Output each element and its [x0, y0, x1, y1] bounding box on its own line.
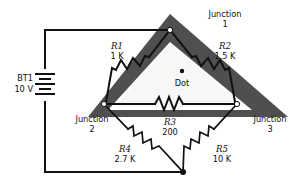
r3-ref-label: R3 [163, 117, 176, 127]
r5-ref-label: R5 [215, 144, 228, 154]
r2-value-label: 1.5 K [215, 51, 237, 61]
junction-2-name: Junction [75, 114, 109, 124]
r5-value-label: 10 K [213, 154, 232, 164]
battery-ref-label: BT1 [17, 73, 33, 83]
circuit-diagram: BT1 10 V [0, 0, 299, 187]
junction-1-name: Junction [208, 9, 242, 19]
r2-ref-label: R2 [218, 41, 231, 51]
schematic-canvas: BT1 10 V [0, 0, 299, 187]
battery-symbol [36, 74, 54, 94]
junction-1-number: 1 [222, 19, 227, 29]
battery-value-label: 10 V [14, 84, 33, 94]
center-dot-label: Dot [175, 78, 190, 88]
junction-node-1 [167, 27, 172, 32]
junction-3-number: 3 [267, 124, 272, 134]
junction-node-2 [101, 101, 106, 106]
resistor-r5-zigzag [183, 126, 214, 172]
r4-ref-label: R4 [118, 144, 131, 154]
r3-value-label: 200 [162, 127, 178, 137]
center-dot-icon [180, 69, 184, 73]
junction-3-name: Junction [253, 114, 287, 124]
junction-2-number: 2 [89, 124, 94, 134]
r1-ref-label: R1 [110, 41, 123, 51]
junction-node-3 [234, 101, 239, 106]
r1-value-label: 1 K [110, 51, 124, 61]
junction-node-bottom [180, 169, 186, 175]
r4-value-label: 2.7 K [115, 154, 137, 164]
